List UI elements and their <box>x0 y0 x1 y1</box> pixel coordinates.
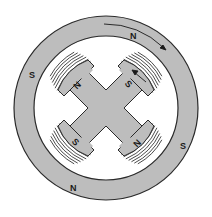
stator-label-top-right: N <box>130 31 137 41</box>
stator-label-left: S <box>29 70 35 80</box>
stator-label-right: S <box>180 141 186 151</box>
motor-diagram: N S S N N S S N <box>0 0 212 217</box>
stator-label-bottom-left: N <box>70 183 77 193</box>
